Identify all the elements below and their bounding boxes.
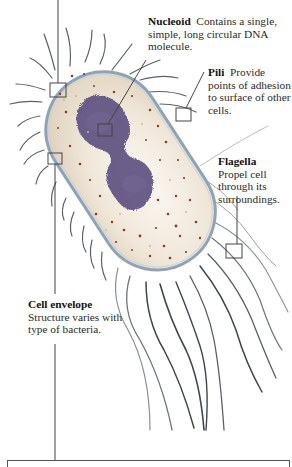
cell-envelope-term: Cell envelope bbox=[28, 298, 124, 311]
nucleoid-term: Nucleoid bbox=[148, 15, 191, 27]
pili-term: Pili bbox=[208, 66, 224, 78]
flagella-label: Flagella Propel cell through its surroun… bbox=[218, 155, 292, 205]
cell-envelope-description: Structure varies with type of bacteria. bbox=[28, 311, 124, 336]
cell-envelope-label: Cell envelope Structure varies with type… bbox=[28, 298, 124, 336]
pili-label: Pili Provide points of adhesion to surfa… bbox=[208, 66, 292, 116]
flagella-term: Flagella bbox=[218, 155, 292, 168]
pili-callout-box bbox=[176, 108, 191, 121]
bottom-frame-border bbox=[7, 460, 290, 467]
nucleoid-label: Nucleoid Contains a single, simple, long… bbox=[148, 15, 290, 53]
flagella-callout-box bbox=[226, 244, 242, 258]
flagella-description: Propel cell through its surroundings. bbox=[218, 168, 292, 206]
